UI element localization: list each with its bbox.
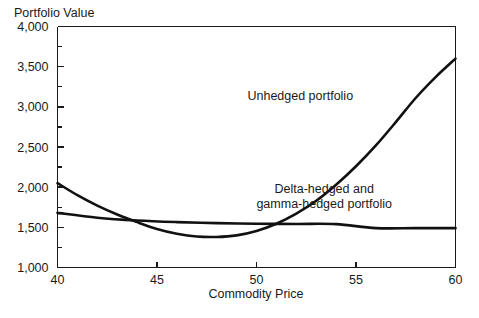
unhedged-label: Unhedged portfolio bbox=[247, 89, 353, 103]
x-axis-title: Commodity Price bbox=[208, 287, 303, 301]
x-tick-label: 45 bbox=[150, 273, 164, 287]
y-tick-label: 2,500 bbox=[17, 141, 48, 155]
y-tick-label: 3,000 bbox=[17, 100, 48, 114]
x-tick-label: 55 bbox=[349, 273, 363, 287]
x-axis-tick-labels: 4045505560 bbox=[51, 273, 463, 287]
annotation-line: gamma-hedged portfolio bbox=[256, 197, 392, 211]
chart-container: 1,0001,5002,0002,5003,0003,5004,000 4045… bbox=[0, 0, 479, 318]
hedged-label: Delta-hedged andgamma-hedged portfolio bbox=[256, 182, 392, 211]
x-tick-label: 40 bbox=[51, 273, 65, 287]
annotation-line: Delta-hedged and bbox=[274, 182, 373, 196]
portfolio-value-chart: 1,0001,5002,0002,5003,0003,5004,000 4045… bbox=[0, 0, 479, 318]
y-tick-label: 1,000 bbox=[17, 261, 48, 275]
y-tick-label: 4,000 bbox=[17, 20, 48, 34]
y-tick-label: 2,000 bbox=[17, 181, 48, 195]
x-tick-label: 60 bbox=[449, 273, 463, 287]
annotation-line: Unhedged portfolio bbox=[247, 89, 353, 103]
y-tick-label: 1,500 bbox=[17, 221, 48, 235]
y-tick-label: 3,500 bbox=[17, 60, 48, 74]
y-axis-title: Portfolio Value bbox=[14, 6, 94, 20]
x-tick-label: 50 bbox=[250, 273, 264, 287]
y-axis-tick-labels: 1,0001,5002,0002,5003,0003,5004,000 bbox=[17, 20, 48, 275]
